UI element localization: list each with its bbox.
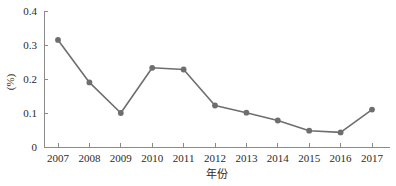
y-tick-label: 0 bbox=[32, 141, 38, 153]
x-tick-label: 2016 bbox=[330, 152, 353, 164]
data-point-marker bbox=[118, 110, 124, 116]
x-axis-title: 年份 bbox=[206, 167, 228, 180]
x-tick-label: 2012 bbox=[204, 152, 226, 164]
x-axis-tick-labels: 2007200820092010201120122013201420152016… bbox=[47, 152, 384, 164]
x-tick-label: 2017 bbox=[361, 152, 384, 164]
data-point-marker bbox=[338, 129, 344, 135]
x-tick-label: 2008 bbox=[78, 152, 101, 164]
y-tick-label: 0.4 bbox=[23, 5, 37, 17]
data-point-marker bbox=[212, 103, 218, 109]
x-axis-tick-marks bbox=[58, 143, 372, 147]
data-point-marker bbox=[87, 80, 93, 86]
data-point-marker bbox=[55, 37, 61, 43]
data-series-line bbox=[58, 40, 372, 132]
y-tick-label: 0.2 bbox=[23, 73, 37, 85]
chart-container: 00.10.20.30.4 20072008200920102011201220… bbox=[0, 0, 396, 186]
data-point-marker bbox=[306, 128, 312, 134]
data-point-marker bbox=[181, 67, 187, 73]
x-tick-label: 2011 bbox=[173, 152, 195, 164]
y-axis-title: (%) bbox=[4, 73, 17, 90]
x-tick-label: 2015 bbox=[298, 152, 321, 164]
x-tick-label: 2014 bbox=[267, 152, 290, 164]
x-tick-label: 2013 bbox=[235, 152, 258, 164]
y-axis-tick-labels: 00.10.20.30.4 bbox=[23, 5, 37, 153]
x-tick-label: 2010 bbox=[141, 152, 164, 164]
data-point-marker bbox=[369, 107, 375, 113]
y-tick-label: 0.1 bbox=[23, 107, 37, 119]
line-chart: 00.10.20.30.4 20072008200920102011201220… bbox=[0, 0, 396, 186]
x-tick-label: 2009 bbox=[110, 152, 133, 164]
data-point-marker bbox=[149, 65, 155, 71]
x-tick-label: 2007 bbox=[47, 152, 70, 164]
data-point-markers bbox=[55, 37, 375, 135]
data-point-marker bbox=[275, 118, 281, 124]
y-axis-tick-marks bbox=[44, 11, 48, 113]
y-tick-label: 0.3 bbox=[23, 39, 37, 51]
data-point-marker bbox=[244, 110, 250, 116]
